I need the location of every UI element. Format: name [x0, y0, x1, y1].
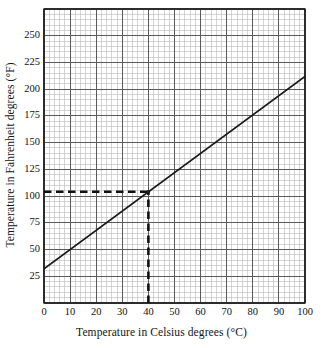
y-tick-label: 175 [6, 109, 40, 120]
y-tick-label: 50 [6, 243, 40, 254]
y-tick-label: 225 [6, 56, 40, 67]
y-tick-label: 250 [6, 29, 40, 40]
marked-point [147, 190, 151, 194]
y-tick-label: 125 [6, 163, 40, 174]
y-axis-title-container: Temperature in Fahrenheit degrees (°F) [0, 0, 20, 310]
y-tick-label: 75 [6, 216, 40, 227]
chart-background [0, 0, 323, 348]
x-tick-label: 100 [290, 306, 320, 317]
y-tick-label: 200 [6, 83, 40, 94]
y-tick-label: 100 [6, 190, 40, 201]
chart-figure: Temperature in Fahrenheit degrees (°F) T… [0, 0, 323, 348]
chart-canvas [0, 0, 323, 348]
x-axis-title: Temperature in Celsius degrees (°C) [0, 326, 323, 338]
y-tick-label: 150 [6, 136, 40, 147]
y-tick-label: 25 [6, 270, 40, 281]
